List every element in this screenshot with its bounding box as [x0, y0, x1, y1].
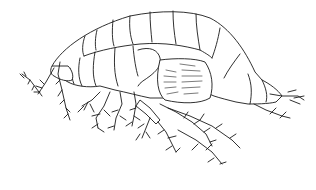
illustration-canvas: [0, 0, 316, 190]
amphipod-drawing: [0, 0, 316, 190]
amphipod-legs: [78, 92, 240, 164]
amphipod-body: [51, 11, 282, 104]
